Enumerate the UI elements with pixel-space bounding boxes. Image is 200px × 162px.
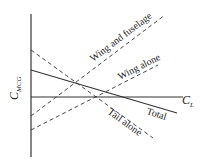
total-label: Total	[145, 105, 168, 122]
tail-alone-label: Tail alone	[106, 106, 145, 138]
wing-alone-label: Wing alone	[116, 51, 162, 82]
moment-coefficient-diagram: Wing and fuselage Wing alone Tail alone …	[0, 0, 200, 162]
x-axis-label: C L	[182, 93, 194, 109]
svg-text:MCG: MCG	[15, 76, 23, 93]
svg-text:L: L	[189, 101, 194, 109]
y-axis-label: C MCG	[7, 76, 23, 100]
wing-and-fuselage-label: Wing and fuselage	[88, 10, 155, 64]
